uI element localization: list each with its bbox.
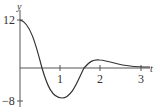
data-curve	[20, 20, 150, 98]
x-tick-label-3: 3	[138, 72, 144, 86]
y-tick-label-12: 12	[3, 13, 15, 27]
x-tick-label-1: 1	[57, 72, 63, 86]
chart: y t 12 −8 1 2 3	[0, 0, 155, 109]
x-axis-label: t	[150, 63, 153, 74]
x-tick-label-2: 2	[97, 72, 103, 86]
y-axis-label: y	[16, 1, 22, 12]
y-tick-label-neg8: −8	[2, 94, 15, 108]
